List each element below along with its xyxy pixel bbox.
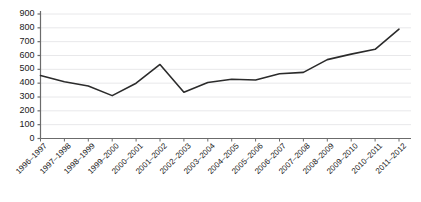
y-axis-tick-label: 900: [5, 9, 35, 18]
y-axis-tick-label: 0: [5, 134, 35, 143]
y-axis-tick-label: 200: [5, 106, 35, 115]
axes: [41, 11, 412, 139]
y-axis-tick-label: 600: [5, 51, 35, 60]
gridlines: [41, 14, 412, 125]
y-axis-tick-label: 500: [5, 64, 35, 73]
y-axis-tick-label: 800: [5, 23, 35, 32]
y-axis-tick-label: 100: [5, 120, 35, 129]
y-axis-tick-label: 300: [5, 92, 35, 101]
data-series-line: [41, 29, 400, 95]
line-chart: 0100200300400500600700800900 1996–199719…: [0, 0, 421, 202]
y-axis-tick-label: 700: [5, 37, 35, 46]
y-axis-tick-label: 400: [5, 78, 35, 87]
